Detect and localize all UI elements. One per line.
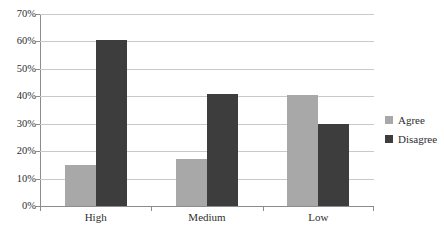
y-axis-tick-label: 20% (0, 146, 36, 157)
y-axis-tick-label: 0% (0, 201, 36, 212)
x-axis-tick (373, 206, 374, 211)
bar-medium-disagree (207, 94, 238, 206)
y-axis-tick-labels: 0%10%20%30%40%50%60%70% (0, 0, 36, 241)
x-axis-category-labels: HighMediumLow (40, 212, 374, 234)
gridline (40, 206, 374, 207)
y-axis-tick-label: 10% (0, 173, 36, 184)
x-axis-tick (151, 206, 152, 211)
bar-medium-agree (176, 159, 207, 206)
legend-item-disagree[interactable]: Disagree (385, 131, 437, 147)
x-axis-tick (40, 206, 41, 211)
x-axis-label-low: Low (308, 212, 328, 223)
legend-label: Disagree (398, 134, 437, 145)
x-axis-tick (263, 206, 264, 211)
bar-low-agree (287, 95, 318, 206)
bar-high-disagree (96, 40, 127, 206)
chart-legend: AgreeDisagree (385, 112, 437, 150)
x-axis-label-medium: Medium (188, 212, 225, 223)
legend-label: Agree (398, 115, 425, 126)
y-axis-tick-label: 40% (0, 91, 36, 102)
x-axis-label-high: High (85, 212, 107, 223)
bars (40, 14, 374, 206)
legend-item-agree[interactable]: Agree (385, 112, 437, 128)
y-axis-tick-label: 70% (0, 9, 36, 20)
legend-swatch-icon (385, 116, 393, 124)
bar-low-disagree (318, 124, 349, 206)
plot-area (40, 14, 374, 206)
bar-high-agree (65, 165, 96, 206)
y-axis-tick-label: 30% (0, 118, 36, 129)
bar-chart: 0%10%20%30%40%50%60%70% HighMediumLow Ag… (0, 0, 444, 241)
y-axis-tick-label: 60% (0, 36, 36, 47)
y-axis-tick-label: 50% (0, 64, 36, 75)
legend-swatch-icon (385, 135, 393, 143)
